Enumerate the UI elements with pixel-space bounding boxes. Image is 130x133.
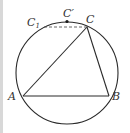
segment-bc bbox=[87, 27, 109, 96]
label-b: B bbox=[111, 90, 120, 103]
label-c1-subscript: 1 bbox=[35, 22, 39, 30]
label-c: C bbox=[86, 13, 95, 26]
label-a: A bbox=[7, 90, 16, 103]
point-c-prime-dot bbox=[65, 20, 68, 23]
geometry-diagram: A B C C′ C1 bbox=[0, 0, 130, 133]
segment-ac bbox=[23, 27, 87, 96]
label-c-prime: C′ bbox=[63, 7, 74, 20]
circumcircle bbox=[16, 22, 118, 124]
label-c1: C1 bbox=[27, 16, 40, 30]
